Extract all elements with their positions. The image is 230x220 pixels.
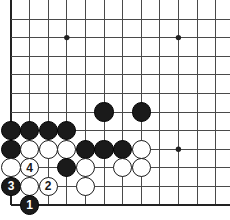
stone-move-number: 3 [8, 180, 15, 192]
white-stone-a9 [1, 158, 20, 177]
star-point-upper-left [64, 35, 69, 40]
stone-move-number: 1 [26, 198, 33, 210]
black-stone-a7 [1, 121, 20, 140]
black-stone-a10-move3: 3 [1, 177, 20, 196]
white-stone-c10-move2: 2 [39, 177, 58, 196]
black-stone-f8 [94, 140, 113, 159]
white-stone-h9 [132, 158, 151, 177]
stone-move-number: 4 [26, 161, 33, 173]
black-stone-h6 [132, 102, 151, 121]
black-stone-f6 [94, 102, 113, 121]
black-stone-g8 [113, 140, 132, 159]
go-board-diagram: 4321 [0, 0, 230, 220]
white-stone-b8 [20, 140, 39, 159]
black-stone-c7 [39, 121, 58, 140]
black-stone-a8 [1, 140, 20, 159]
stone-move-number: 2 [45, 180, 52, 192]
star-point-upper-right [176, 35, 181, 40]
black-stone-e8 [76, 140, 95, 159]
black-stone-b11-move1: 1 [20, 195, 39, 214]
white-stone-h8 [132, 140, 151, 159]
white-stone-e10 [76, 177, 95, 196]
white-stone-b10 [20, 177, 39, 196]
white-stone-c8 [39, 140, 58, 159]
star-point-lower-right [176, 147, 181, 152]
white-stone-d8 [57, 140, 76, 159]
